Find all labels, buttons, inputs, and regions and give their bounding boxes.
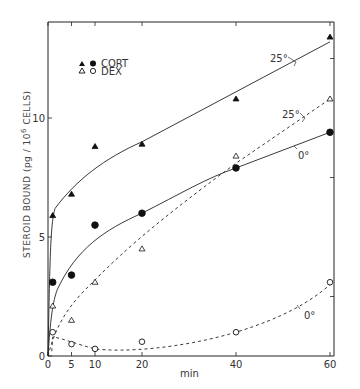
y-tick-label: 10 bbox=[32, 113, 45, 124]
open-circle-marker bbox=[233, 329, 239, 335]
annotations: 25°25°0°0° bbox=[270, 53, 315, 321]
dex-25-curve bbox=[48, 99, 330, 356]
open-circle-marker bbox=[50, 329, 56, 335]
y-tick-label: 5 bbox=[39, 232, 45, 243]
filled-circle-marker bbox=[233, 165, 240, 172]
legend-dex: DEX bbox=[79, 66, 122, 77]
cort-0-curve bbox=[48, 132, 330, 356]
x-tick-label: 60 bbox=[324, 359, 337, 370]
axes: 05102040600510 bbox=[32, 22, 336, 370]
x-tick-label: 20 bbox=[136, 359, 149, 370]
legend-label-dex: DEX bbox=[101, 66, 122, 77]
filled-triangle-icon bbox=[79, 61, 85, 66]
x-tick-label: 10 bbox=[89, 359, 102, 370]
filled-triangle-marker bbox=[92, 144, 98, 149]
filled-triangle-marker bbox=[233, 96, 239, 101]
annotation-arrow-icon bbox=[297, 305, 300, 309]
dex-0-curve bbox=[52, 285, 330, 352]
open-triangle-marker bbox=[327, 96, 333, 101]
filled-circle-marker bbox=[327, 129, 334, 136]
open-circle-marker bbox=[139, 339, 145, 345]
x-tick-label: 5 bbox=[68, 359, 74, 370]
y-axis-label: STEROID BOUND (pg / 106 CELLS) bbox=[20, 90, 32, 258]
filled-triangle-marker bbox=[139, 141, 145, 146]
open-circle-icon bbox=[90, 68, 95, 73]
filled-circle-marker bbox=[139, 210, 146, 217]
filled-triangle-marker bbox=[327, 34, 333, 39]
cort-25-curve bbox=[48, 42, 330, 356]
filled-circle-marker bbox=[92, 222, 99, 229]
annotation-arrow-icon bbox=[288, 57, 296, 66]
open-circle-marker bbox=[327, 279, 333, 285]
fit-curves bbox=[48, 42, 330, 356]
filled-circle-icon bbox=[90, 61, 96, 67]
chart: 05102040600510 CORT DEX 25°25°0°0° min S… bbox=[0, 0, 360, 389]
x-tick-label: 0 bbox=[45, 359, 51, 370]
open-circle-marker bbox=[69, 341, 75, 347]
open-circle-marker bbox=[92, 346, 98, 352]
x-axis-label: min bbox=[180, 368, 199, 379]
filled-circle-marker bbox=[68, 272, 75, 279]
open-triangle-marker bbox=[233, 153, 239, 158]
open-triangle-marker bbox=[139, 246, 145, 251]
open-triangle-marker bbox=[69, 317, 75, 322]
filled-triangle-marker bbox=[50, 213, 56, 218]
temperature-annotation: 25° bbox=[282, 109, 300, 120]
data-points bbox=[49, 34, 333, 352]
temperature-annotation: 0° bbox=[304, 310, 315, 321]
open-triangle-marker bbox=[92, 279, 98, 284]
x-tick-label: 40 bbox=[230, 359, 243, 370]
temperature-annotation: 0° bbox=[298, 150, 309, 161]
open-triangle-icon bbox=[79, 68, 85, 73]
open-triangle-marker bbox=[50, 303, 56, 308]
temperature-annotation: 25° bbox=[270, 53, 288, 64]
y-tick-label: 0 bbox=[39, 351, 45, 362]
filled-circle-marker bbox=[49, 279, 56, 286]
annotation-arrow-icon bbox=[294, 146, 297, 149]
legend: CORT DEX bbox=[79, 58, 129, 77]
